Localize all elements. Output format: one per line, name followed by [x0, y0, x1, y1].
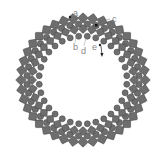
round-bead: [114, 49, 120, 55]
square-bead: [42, 126, 51, 135]
round-bead: [41, 56, 47, 62]
round-bead: [119, 56, 125, 62]
square-bead: [42, 26, 51, 35]
thread-dot-a: [69, 16, 71, 18]
round-bead: [38, 90, 44, 96]
square-bead: [115, 26, 124, 35]
label-c: c: [112, 14, 117, 24]
square-bead: [112, 116, 119, 123]
round-bead: [76, 33, 82, 39]
round-bead: [36, 73, 42, 79]
square-bead: [119, 109, 126, 116]
round-bead: [46, 49, 52, 55]
beaded-ring-diagram: abcde: [0, 0, 160, 160]
round-bead: [93, 35, 99, 41]
square-bead: [35, 32, 43, 40]
round-bead: [101, 38, 107, 44]
square-bead: [47, 116, 54, 123]
square-bead: [112, 37, 119, 44]
square-bead: [123, 32, 131, 40]
round-bead: [93, 119, 99, 125]
round-bead: [52, 111, 58, 117]
round-bead: [108, 43, 114, 49]
thread-dot-c: [95, 24, 98, 27]
square-bead: [119, 44, 126, 51]
round-bead: [41, 98, 47, 104]
label-e: e: [92, 42, 97, 52]
round-bead: [101, 116, 107, 122]
square-bead: [40, 109, 47, 116]
round-bead: [84, 33, 90, 39]
round-bead: [38, 64, 44, 70]
thread-dot-e: [99, 44, 101, 46]
label-d: d: [81, 46, 86, 56]
square-bead: [47, 37, 54, 44]
round-bead: [122, 64, 128, 70]
square-bead: [40, 44, 47, 51]
label-b: b: [73, 42, 78, 52]
square-bead: [123, 120, 131, 128]
round-bead: [52, 43, 58, 49]
round-bead: [59, 116, 65, 122]
round-bead: [67, 119, 73, 125]
square-bead: [129, 112, 138, 121]
round-bead: [119, 98, 125, 104]
square-bead: [115, 126, 124, 135]
round-bead: [122, 90, 128, 96]
round-bead: [76, 121, 82, 127]
round-bead: [124, 73, 130, 79]
round-bead: [108, 111, 114, 117]
bead-rows: [16, 13, 151, 148]
arrow-e-head: [100, 53, 103, 57]
pointer-d: [84, 38, 86, 46]
round-bead: [36, 81, 42, 87]
square-bead: [29, 112, 38, 121]
round-bead: [67, 35, 73, 41]
inner-square-row: [27, 24, 138, 135]
square-bead: [35, 120, 43, 128]
pointer-c: [106, 19, 110, 20]
square-bead: [129, 39, 138, 48]
round-bead: [46, 105, 52, 111]
round-bead: [84, 121, 90, 127]
round-bead: [114, 105, 120, 111]
label-a: a: [73, 8, 78, 18]
round-bead: [59, 38, 65, 44]
square-bead: [29, 39, 38, 48]
round-bead: [124, 81, 130, 87]
